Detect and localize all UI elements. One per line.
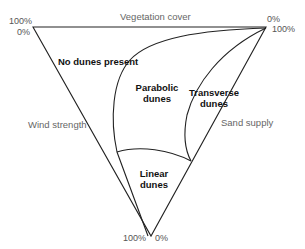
axis-wind-strength: Wind strength (28, 120, 87, 130)
axis-vegetation-cover: Vegetation cover (120, 12, 191, 22)
region-parabolic-line2: dunes (132, 93, 182, 104)
top-right-upper-label: 0% (267, 14, 280, 24)
region-transverse-line2: dunes (186, 98, 242, 109)
region-linear: Linear dunes (134, 168, 174, 190)
region-parabolic: Parabolic dunes (132, 82, 182, 104)
region-transverse: Transverse dunes (186, 87, 242, 109)
top-right-lower-label: 100% (272, 24, 295, 34)
region-parabolic-line1: Parabolic (132, 82, 182, 93)
axis-sand-supply: Sand supply (221, 118, 273, 128)
bottom-right-label: 0% (155, 233, 168, 243)
region-linear-line1: Linear (134, 168, 174, 179)
region-linear-line2: dunes (134, 179, 174, 190)
region-no-dunes: No dunes present (58, 56, 138, 67)
bottom-left-label: 100% (123, 233, 146, 243)
linear-boundary (117, 149, 191, 161)
top-left-lower-label: 0% (17, 27, 30, 37)
top-left-upper-label: 100% (9, 16, 32, 26)
region-transverse-line1: Transverse (186, 87, 242, 98)
